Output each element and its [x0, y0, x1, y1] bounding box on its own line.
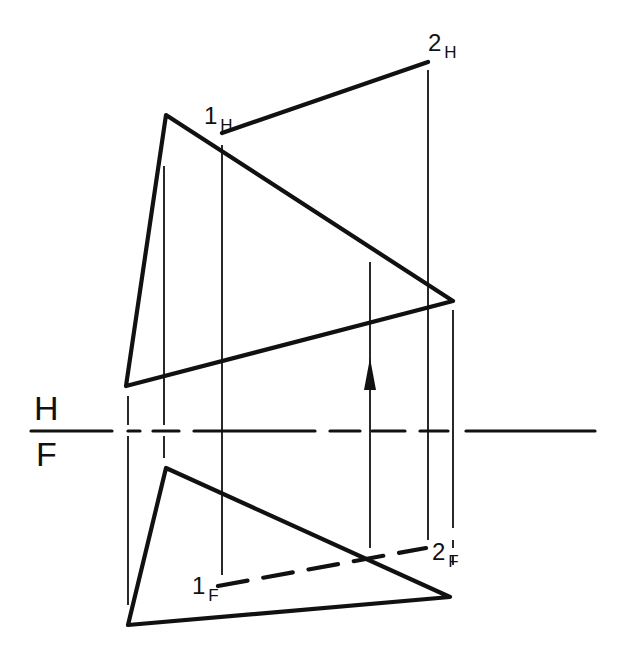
fold-label-h: H [34, 389, 59, 427]
drawing-canvas: 1H2H1F2F H F [0, 0, 628, 664]
frontal-view [128, 468, 450, 625]
line-1-2 [222, 62, 428, 133]
arrow-up-icon [364, 358, 376, 390]
descriptive-geometry-diagram: 1H2H1F2F H F [0, 0, 628, 664]
point-labels: 1H2H1F2F [192, 29, 459, 605]
horizontal-view [126, 62, 453, 386]
point-label-1H: 1H [204, 102, 233, 135]
line-1-2 [218, 548, 426, 586]
fold-label-f: F [36, 435, 57, 473]
point-label-2F: 2F [432, 538, 459, 571]
plane-triangle [128, 468, 450, 625]
point-label-2H: 2H [428, 29, 457, 62]
plane-triangle [126, 115, 453, 386]
point-label-1F: 1F [192, 572, 219, 605]
